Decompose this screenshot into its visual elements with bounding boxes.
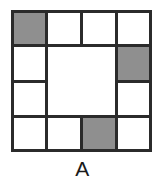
grid-cell-r3c1 <box>11 81 47 117</box>
grid-cell-r1c1 <box>11 10 47 46</box>
grid-cell-r3c4 <box>116 81 152 117</box>
pattern-grid <box>11 10 152 152</box>
grid-cell-r1c2 <box>46 10 82 46</box>
grid-cell-r4c3 <box>81 116 117 152</box>
grid-cell-center-block <box>46 45 117 117</box>
grid-cell-r4c4 <box>116 116 152 152</box>
grid-cell-r2c4 <box>116 45 152 82</box>
grid-cell-r4c2 <box>46 116 82 152</box>
figure-panel: A <box>0 0 165 184</box>
grid-cell-r2c1 <box>11 45 47 82</box>
grid-cell-r1c4 <box>116 10 152 46</box>
grid-cell-r4c1 <box>11 116 47 152</box>
grid-cell-r1c3 <box>81 10 117 46</box>
figure-caption: A <box>0 156 165 182</box>
